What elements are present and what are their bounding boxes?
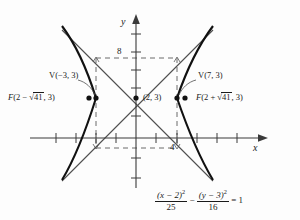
- equation-equals: = 1: [231, 195, 243, 205]
- equation-first-numerator: (x − 2)2: [155, 188, 187, 202]
- left-focus-dot: [86, 95, 91, 100]
- hyperbola-figure: [0, 0, 300, 220]
- equation-operator: −: [189, 195, 194, 205]
- x-axis-arrowhead: [258, 134, 268, 142]
- right-branch: [177, 26, 213, 180]
- left-vertex-dot: [93, 95, 98, 100]
- y-tick-label-8: 8: [117, 47, 122, 56]
- equation-second-denominator: 16: [197, 202, 229, 213]
- equation-second-fraction: (y − 3)2 16: [197, 188, 229, 214]
- right-vertex-label: V(7, 3): [198, 71, 223, 80]
- x-axis-label: x: [253, 143, 257, 153]
- left-vertex-label: V(−3, 3): [49, 71, 78, 80]
- left-focus-label: F(2 − √41, 3): [8, 92, 55, 102]
- equation-second-numerator: (y − 3)2: [197, 188, 229, 202]
- right-vertex-dot: [174, 95, 179, 100]
- hyperbola-equation: (x − 2)2 25 − (y − 3)2 16 = 1: [155, 188, 243, 214]
- x-tick-label-4: 4: [170, 143, 175, 152]
- center-label: (2, 3): [143, 93, 161, 102]
- y-axis-label: y: [121, 17, 125, 27]
- right-focus-dot: [182, 95, 187, 100]
- plotted-points: [86, 95, 187, 100]
- hyperbola-curves: [62, 26, 213, 180]
- y-axis-arrowhead: [132, 14, 140, 24]
- equation-first-denominator: 25: [155, 202, 187, 213]
- center-dot: [133, 95, 138, 100]
- left-branch: [62, 26, 96, 180]
- equation-first-fraction: (x − 2)2 25: [155, 188, 187, 214]
- axes: [30, 20, 262, 188]
- right-focus-label: F(2 + √41, 3): [196, 92, 243, 102]
